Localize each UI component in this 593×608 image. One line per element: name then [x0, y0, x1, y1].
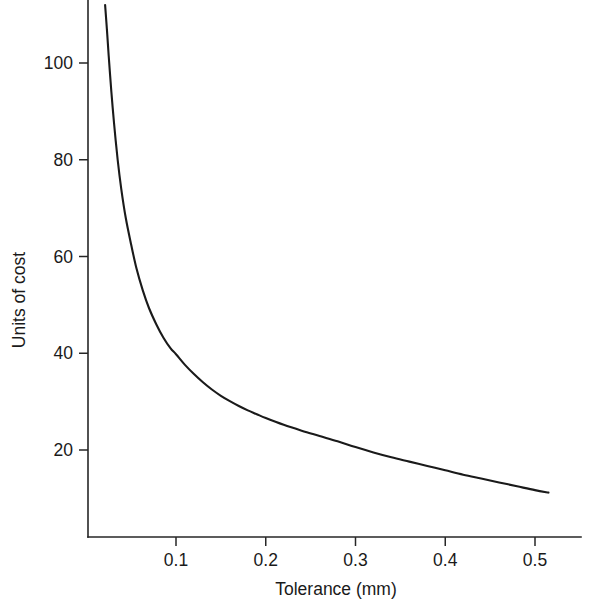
y-tick-label: 80 — [54, 150, 74, 170]
y-tick-label: 100 — [44, 53, 73, 73]
x-tick-label: 0.4 — [433, 550, 458, 570]
x-tick-label: 0.2 — [254, 550, 278, 570]
y-tick-label: 40 — [54, 343, 74, 363]
x-tick-label: 0.5 — [523, 550, 547, 570]
x-axis-title: Tolerance (mm) — [275, 579, 397, 599]
cost-curve — [105, 5, 548, 493]
y-tick-marks — [79, 63, 88, 450]
x-tick-marks — [176, 537, 535, 546]
y-tick-label: 20 — [54, 440, 74, 460]
y-axis-group: 20406080100 — [44, 0, 88, 537]
chart-canvas: 20406080100 0.10.20.30.40.5 Tolerance (m… — [0, 0, 593, 608]
y-tick-label: 60 — [54, 247, 74, 267]
data-series-group — [105, 5, 548, 493]
y-tick-labels: 20406080100 — [44, 53, 73, 460]
y-axis-title: Units of cost — [9, 252, 29, 348]
x-tick-labels: 0.10.20.30.40.5 — [164, 550, 547, 570]
chart-figure: 20406080100 0.10.20.30.40.5 Tolerance (m… — [0, 0, 593, 608]
x-tick-label: 0.1 — [164, 550, 188, 570]
x-tick-label: 0.3 — [343, 550, 367, 570]
x-axis-group: 0.10.20.30.40.5 — [88, 537, 581, 570]
